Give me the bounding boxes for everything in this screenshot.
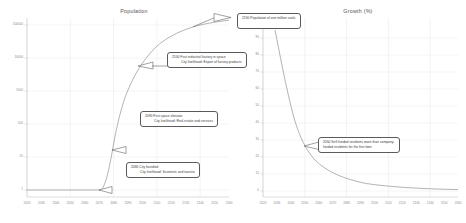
callout-first-space-elevator-line2: City livelihood: Real estate and service… xyxy=(145,119,213,124)
factory-callout-tail-leader xyxy=(232,0,460,223)
callout-self-funded-residents[interactable]: 2050 Self-funded residents more than com… xyxy=(318,137,400,153)
callout-city-founded-line2: City livelihood: Scientists and tourists xyxy=(131,170,195,175)
callout-city-founded[interactable]: 2080 City founded City livelihood: Scien… xyxy=(126,162,200,178)
callout-first-space-elevator[interactable]: 2090 First space elevator City livelihoo… xyxy=(140,111,218,127)
population-one-million-arrow xyxy=(214,14,231,22)
population-chart-panel: Population xyxy=(0,0,232,223)
callout-self-funded-residents-line2: funded residents for the first time xyxy=(323,145,395,150)
callout-population-one-million[interactable]: 2150 Population of one million souls xyxy=(237,13,301,29)
callout-first-industrial-factory-line2: City livelihood: Export of factory produ… xyxy=(172,60,242,65)
callout-population-one-million-line1: 2150 Population of one million souls xyxy=(242,16,296,21)
population-one-million-leader-line xyxy=(193,18,215,27)
callout-first-industrial-factory[interactable]: 2100 First industrial factory in space C… xyxy=(167,52,247,68)
